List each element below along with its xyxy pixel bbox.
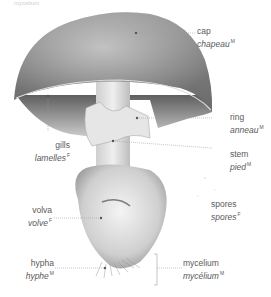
- label-spores: spores sporesF: [211, 199, 241, 222]
- label-stem: stem piedM: [230, 149, 251, 172]
- label-volva: volva volveF: [10, 205, 52, 228]
- volva-shape: [75, 164, 166, 268]
- label-hypha: hypha hypheM: [10, 258, 54, 281]
- label-cap: cap chapeauM: [197, 26, 235, 49]
- label-ring: ring anneauM: [230, 112, 264, 135]
- label-mycelium: mycelium mycéliumM: [183, 258, 224, 281]
- mushroom-diagram: mycelium: [0, 0, 271, 297]
- spores-dots: [197, 177, 215, 196]
- label-gills: gills lamellesF: [24, 140, 70, 163]
